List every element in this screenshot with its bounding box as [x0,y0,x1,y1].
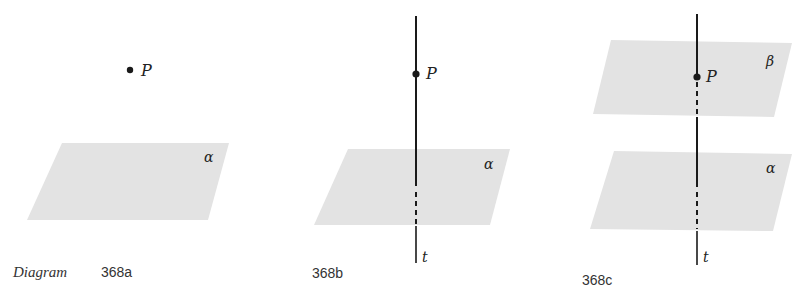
point-p-label: P [140,61,152,80]
caption-number: 368b [312,265,343,281]
point-p-label: P [705,67,717,86]
caption-number: 368c [582,272,612,288]
point-p [693,73,700,80]
plane-beta [593,40,792,117]
panel-368a: α P Diagram 368a [12,61,229,280]
plane-alpha-label: α [766,160,776,176]
plane-alpha-label: α [484,156,494,172]
line-t-label: t [422,249,428,265]
plane-alpha [314,149,510,225]
plane-alpha [590,151,792,231]
caption-prefix: Diagram [12,264,67,280]
point-p [412,70,419,77]
point-p [127,67,133,73]
plane-alpha [27,143,229,220]
panel-368c: β α P t 368c [582,14,792,288]
diagram-figure: α P Diagram 368a α P t 368b β α P t 368c [0,0,804,304]
panel-368b: α P t 368b [312,16,510,281]
plane-alpha-label: α [204,149,214,165]
caption-number: 368a [101,264,132,280]
line-t-label: t [703,249,709,265]
plane-beta-label: β [765,53,774,69]
point-p-label: P [425,64,437,83]
